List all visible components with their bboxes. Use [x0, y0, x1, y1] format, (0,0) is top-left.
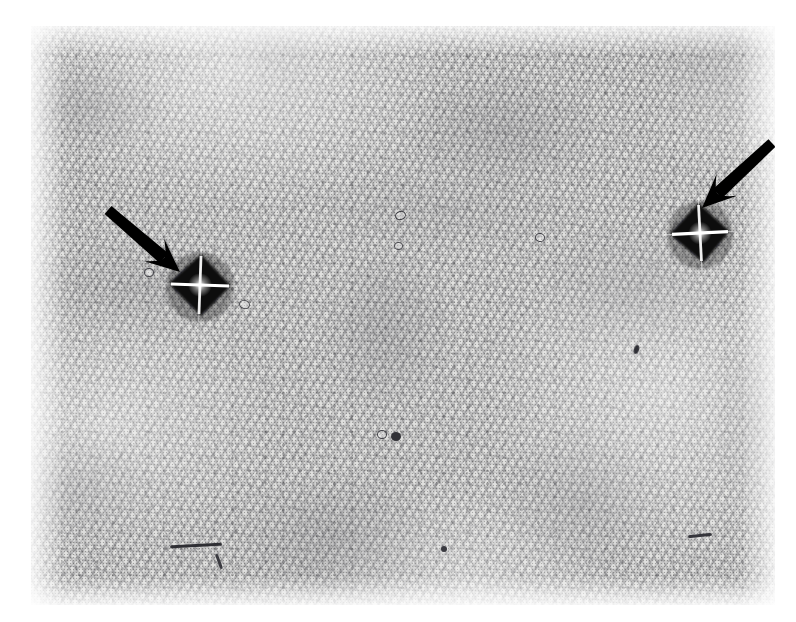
left-arrow — [82, 184, 206, 298]
pore-h — [441, 546, 447, 552]
right-arrow — [676, 117, 775, 234]
pore-g — [391, 432, 401, 441]
micrograph-plate — [31, 26, 775, 605]
illumination-wash — [31, 26, 775, 605]
pore-f — [377, 430, 387, 439]
micrograph-page — [0, 0, 796, 622]
pore-b — [394, 242, 403, 250]
